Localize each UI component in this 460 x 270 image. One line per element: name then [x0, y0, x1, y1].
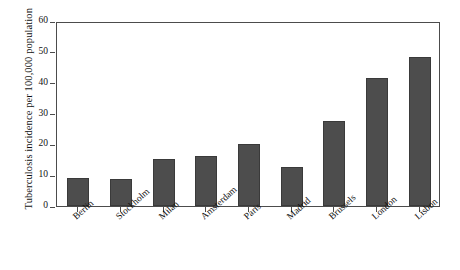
bar-paris: [238, 144, 260, 206]
tuberculosis-incidence-bar-chart: Tuberculosis incidence per 100,000 popul…: [0, 0, 460, 270]
y-tick-mark: [50, 52, 55, 53]
y-tick-label: 50: [28, 46, 48, 56]
bar-brussels: [323, 121, 345, 206]
y-tick-label: 40: [28, 77, 48, 87]
y-tick-label: 10: [28, 169, 48, 179]
y-tick-mark: [50, 207, 55, 208]
y-tick-label: 60: [28, 15, 48, 25]
y-tick-label: 0: [28, 200, 48, 210]
plot-area: [56, 22, 440, 207]
y-tick-mark: [50, 176, 55, 177]
bar-amsterdam: [195, 156, 217, 206]
y-tick-label: 30: [28, 108, 48, 118]
y-tick-mark: [50, 145, 55, 146]
y-tick-label: 20: [28, 138, 48, 148]
bar-lisbon: [409, 57, 431, 206]
bar-london: [366, 78, 388, 206]
bar-milan: [153, 159, 175, 206]
y-tick-mark: [50, 22, 55, 23]
y-tick-mark: [50, 114, 55, 115]
y-tick-mark: [50, 83, 55, 84]
